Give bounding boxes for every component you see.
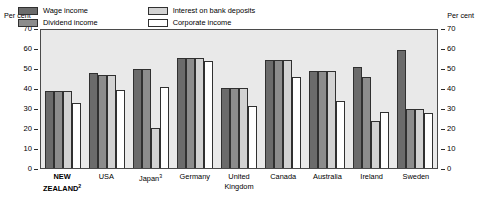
bar-dividend (186, 58, 195, 168)
plot-area (40, 29, 438, 169)
legend-item-corporate: Corporate income (148, 18, 256, 27)
x-axis-label: Australia (305, 172, 349, 212)
y-axis-left-tick-mark (34, 109, 38, 110)
y-axis-right-tick-mark (441, 29, 445, 30)
bar-group (309, 30, 345, 168)
bar-wage (45, 91, 54, 168)
x-axis-label: Japan3 (128, 172, 172, 212)
bar-group (133, 30, 169, 168)
bar-corporate (424, 113, 433, 168)
y-axis-right-tick-mark (441, 89, 445, 90)
bar-corporate (116, 90, 125, 168)
footnote-marker: 3 (159, 173, 162, 179)
bar-dividend (406, 109, 415, 168)
bar-corporate (380, 112, 389, 168)
bar-wage (353, 67, 362, 168)
bars-layer (41, 30, 437, 168)
bar-interest (195, 58, 204, 168)
bar-group (221, 30, 257, 168)
legend-label: Wage income (43, 6, 88, 15)
x-axis-label: Sweden (394, 172, 438, 212)
y-axis-right-tick-mark (441, 149, 445, 150)
chart-legend: Wage incomeInterest on bank depositsDivi… (18, 6, 255, 27)
x-axis-label: USA (84, 172, 128, 212)
y-axis-left-tick-mark (34, 149, 38, 150)
legend-swatch-corporate-icon (148, 19, 168, 27)
y-axis-right-tick-mark (441, 69, 445, 70)
x-axis-label: NEWZEALAND2 (40, 172, 84, 212)
y-axis-right-tick-mark (441, 169, 445, 170)
bar-wage (177, 58, 186, 168)
x-axis-label: UnitedKingdom (217, 172, 261, 212)
bar-corporate (336, 101, 345, 168)
bar-dividend (318, 71, 327, 168)
bar-wage (397, 50, 406, 168)
bar-dividend (98, 75, 107, 168)
bar-wage (221, 88, 230, 168)
legend-label: Dividend income (43, 18, 98, 27)
bar-corporate (204, 61, 213, 168)
bar-wage (133, 69, 142, 168)
y-axis-right-tick-mark (441, 49, 445, 50)
bar-corporate (248, 106, 257, 168)
y-axis-left-tick-mark (34, 169, 38, 170)
bar-interest (63, 91, 72, 168)
bar-interest (239, 88, 248, 168)
legend-swatch-interest-icon (148, 7, 168, 15)
y-axis-left-tick-mark (34, 69, 38, 70)
legend-item-interest: Interest on bank deposits (148, 6, 256, 15)
bar-wage (265, 60, 274, 168)
y-axis-right: 706050403020100 (440, 29, 474, 169)
bar-group (397, 30, 433, 168)
x-axis-labels: NEWZEALAND2USAJapan3GermanyUnitedKingdom… (40, 172, 438, 212)
legend-label: Interest on bank deposits (173, 6, 256, 15)
legend-item-wage: Wage income (18, 6, 98, 15)
bar-interest (371, 121, 380, 168)
y-axis-right-tick-mark (441, 109, 445, 110)
legend-swatch-wage-icon (18, 7, 38, 15)
bar-group (89, 30, 125, 168)
bar-dividend (230, 88, 239, 168)
y-axis-left-tick-mark (34, 29, 38, 30)
bar-interest (283, 60, 292, 168)
bar-dividend (142, 69, 151, 168)
bar-interest (415, 109, 424, 168)
bar-group (265, 30, 301, 168)
x-axis-label: Germany (173, 172, 217, 212)
bar-corporate (292, 77, 301, 168)
right-axis-unit-label: Per cent (447, 11, 474, 20)
bar-dividend (362, 77, 371, 168)
bar-interest (107, 75, 116, 168)
bar-interest (327, 71, 336, 168)
legend-swatch-dividend-icon (18, 19, 38, 27)
bar-corporate (160, 87, 169, 168)
bar-wage (309, 71, 318, 168)
bar-corporate (72, 103, 81, 168)
legend-label: Corporate income (173, 18, 232, 27)
y-axis-right-tick-mark (441, 129, 445, 130)
x-axis-label: Ireland (350, 172, 394, 212)
bar-group (45, 30, 81, 168)
bar-group (353, 30, 389, 168)
legend-item-dividend: Dividend income (18, 18, 98, 27)
x-axis-label: Canada (261, 172, 305, 212)
bar-dividend (54, 91, 63, 168)
bar-interest (151, 128, 160, 168)
bar-dividend (274, 60, 283, 168)
y-axis-left: 706050403020100 (4, 29, 38, 169)
footnote-marker: 2 (78, 183, 81, 189)
y-axis-left-tick-mark (34, 129, 38, 130)
y-axis-left-tick-mark (34, 89, 38, 90)
bar-group (177, 30, 213, 168)
bar-wage (89, 73, 98, 168)
y-axis-left-tick-mark (34, 49, 38, 50)
